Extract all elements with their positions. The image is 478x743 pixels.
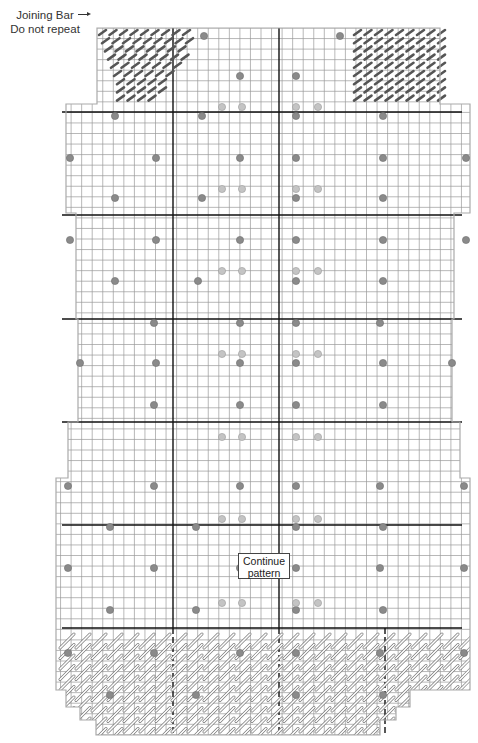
grid xyxy=(50,20,478,740)
joining-bar-line2: Do not repeat xyxy=(4,22,86,36)
continue-pattern-label: Continue pattern xyxy=(238,553,290,579)
pattern-outline xyxy=(56,28,470,735)
continue-line2: pattern xyxy=(239,567,289,579)
arrow-icon xyxy=(78,14,88,15)
joining-bar-stitches xyxy=(99,30,445,101)
joining-bar-label: Joining Bar Do not repeat xyxy=(4,8,86,36)
joining-bar-line1: Joining Bar xyxy=(4,8,86,22)
continue-line1: Continue xyxy=(239,555,289,567)
bead-pattern-chart xyxy=(0,0,478,743)
